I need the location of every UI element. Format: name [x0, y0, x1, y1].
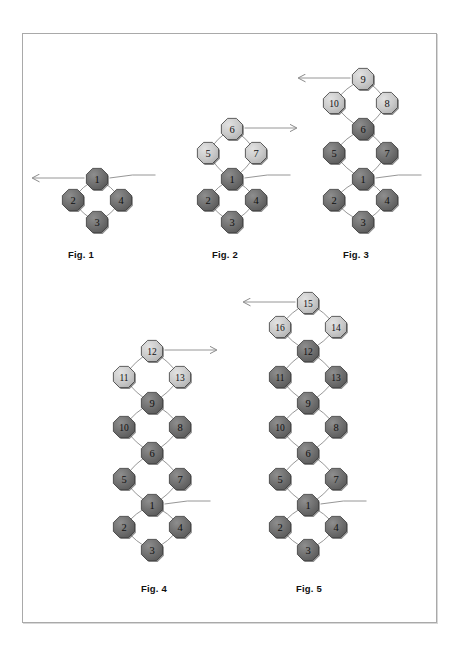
- figure-caption-fig2: Fig. 2: [212, 249, 238, 260]
- figure-page: 1243657124391086571243121113910865712431…: [0, 0, 459, 650]
- page-frame-border: [22, 33, 437, 623]
- figure-caption-fig3: Fig. 3: [343, 249, 369, 260]
- figure-caption-fig4: Fig. 4: [141, 583, 167, 594]
- figure-caption-fig1: Fig. 1: [68, 249, 94, 260]
- figure-caption-fig5: Fig. 5: [296, 583, 322, 594]
